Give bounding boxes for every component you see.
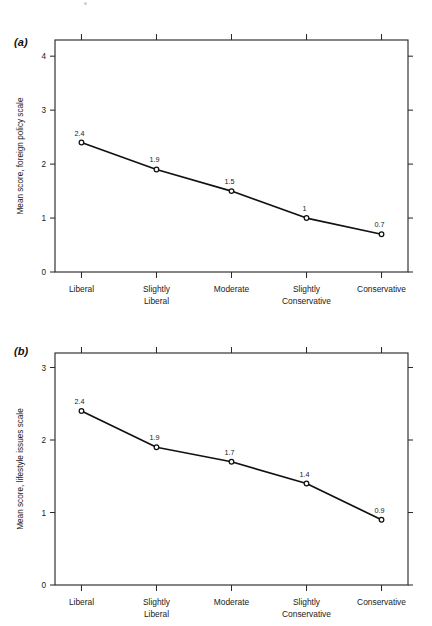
data-point (379, 517, 384, 522)
x-category-label: Conservative (357, 597, 406, 607)
y-tick-label: 0 (41, 268, 46, 277)
x-category-label: Liberal (69, 284, 94, 294)
y-tick-label: 0 (41, 581, 46, 590)
y-tick-label: 4 (41, 52, 46, 61)
data-point (79, 140, 84, 145)
data-point (154, 167, 159, 172)
y-axis-title: Mean score, foreign policy scale (16, 97, 25, 214)
y-axis-title: Mean score, lifestyle issues scale (16, 408, 25, 530)
x-category-label: Slightly (293, 597, 321, 607)
y-tick-label: 2 (41, 160, 46, 169)
y-tick-label: 3 (41, 106, 46, 115)
data-point-label: 1.9 (149, 433, 159, 442)
plot-frame (55, 40, 408, 272)
y-tick-label: 3 (41, 364, 46, 373)
x-category-label: Liberal (144, 609, 169, 619)
x-category-label: Liberal (69, 597, 94, 607)
x-category-label: Slightly (293, 284, 321, 294)
y-tick-label: 1 (41, 509, 46, 518)
x-category-label: Conservative (357, 284, 406, 294)
series-line (81, 411, 381, 520)
plot-frame (55, 353, 408, 585)
data-point-label: 1.4 (300, 470, 310, 479)
data-point-label: 2.4 (74, 129, 84, 138)
plot-a: 01234LiberalSlightlyLiberalModerateSligh… (0, 0, 432, 313)
chart-panel-b: (b) 0123LiberalSlightlyLiberalModerateSl… (0, 313, 432, 626)
chart-panel-a: (a) 01234LiberalSlightlyLiberalModerateS… (0, 0, 432, 313)
plot-b: 0123LiberalSlightlyLiberalModerateSlight… (0, 313, 432, 626)
x-category-label: Slightly (143, 284, 171, 294)
x-category-label: Conservative (282, 296, 331, 306)
data-point (304, 216, 309, 221)
data-point (79, 409, 84, 414)
data-point (154, 445, 159, 450)
data-point (229, 459, 234, 464)
data-point-label: 0.9 (375, 506, 385, 515)
x-category-label: Liberal (144, 296, 169, 306)
data-point-label: 0.7 (375, 220, 385, 229)
y-tick-label: 2 (41, 436, 46, 445)
data-point-label: 1 (303, 204, 307, 213)
figure: (a) 01234LiberalSlightlyLiberalModerateS… (0, 0, 432, 626)
data-point-label: 1.5 (225, 177, 235, 186)
data-point-label: 2.4 (74, 397, 84, 406)
x-category-label: Moderate (214, 597, 250, 607)
y-tick-label: 1 (41, 214, 46, 223)
x-category-label: Slightly (143, 597, 171, 607)
data-point (304, 481, 309, 486)
x-category-label: Moderate (214, 284, 250, 294)
data-point (229, 189, 234, 194)
data-point-label: 1.9 (149, 155, 159, 164)
data-point (379, 232, 384, 237)
x-category-label: Conservative (282, 609, 331, 619)
data-point-label: 1.7 (225, 448, 235, 457)
